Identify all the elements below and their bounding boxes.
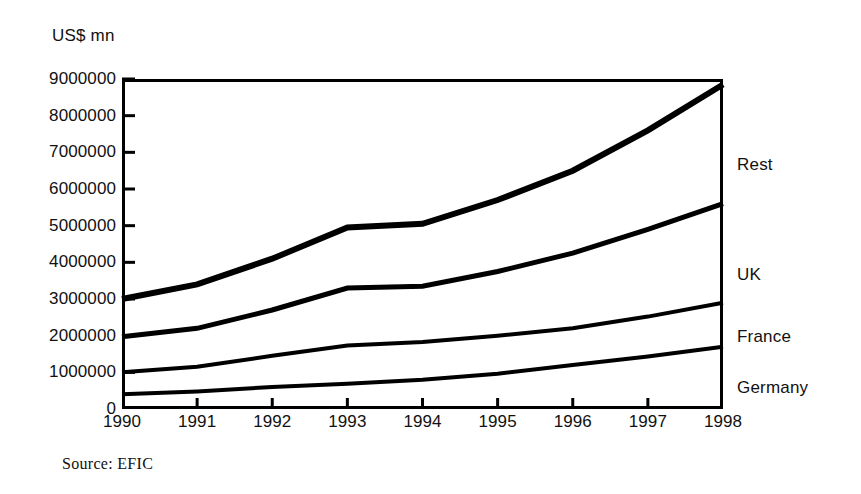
series-label-germany: Germany bbox=[737, 378, 808, 398]
series-label-group: RestUKFranceGermany bbox=[0, 0, 861, 494]
series-label-france: France bbox=[737, 327, 791, 347]
chart-figure: US$ mn 010000002000000300000040000005000… bbox=[0, 0, 861, 494]
series-label-uk: UK bbox=[737, 265, 761, 285]
source-note: Source: EFIC bbox=[62, 455, 153, 473]
series-label-rest: Rest bbox=[737, 155, 773, 175]
